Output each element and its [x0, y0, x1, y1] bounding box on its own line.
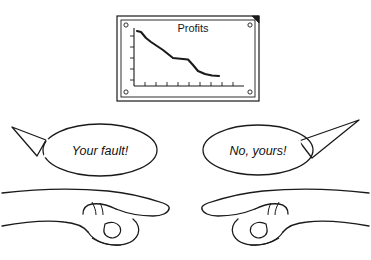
hand-right-palm-edge: [250, 238, 279, 245]
screw-top-left-icon: [124, 23, 128, 27]
pointing-hand-left-group: [2, 189, 169, 245]
chart-x-ticks: [145, 82, 233, 86]
speech-bubble-right-text: No, yours!: [230, 144, 287, 158]
hand-left-knuckle: [83, 204, 116, 214]
pointing-hand-right-group: [202, 189, 369, 245]
cartoon-illustration: Profits Your fault! No, yours!: [0, 0, 371, 260]
speech-bubble-left-group: Your fault!: [12, 124, 157, 176]
screw-top-right-icon: [248, 23, 252, 27]
chart-panel-group: Profits: [117, 16, 259, 101]
hand-left-fingertip: [116, 209, 169, 216]
hand-right-thumbnail: [250, 222, 267, 238]
hand-right-fingertip: [202, 209, 255, 216]
screw-bottom-right-icon: [248, 90, 252, 94]
speech-bubble-right-seam: [298, 140, 305, 159]
speech-bubble-right-group: No, yours!: [203, 120, 359, 175]
speech-bubble-left-text: Your fault!: [72, 144, 129, 158]
hand-right-knuckle: [255, 204, 288, 214]
speech-bubble-left-tail: [12, 127, 46, 156]
screw-bottom-left-icon: [124, 90, 128, 94]
chart-y-ticks: [130, 36, 134, 80]
hand-right-thumb-top: [283, 221, 369, 232]
chart-profit-line: [137, 31, 219, 76]
illustration-canvas: Profits Your fault! No, yours!: [0, 0, 371, 260]
corner-flag-icon: [252, 16, 259, 23]
hand-left-thumbnail: [104, 222, 121, 238]
hand-left-thumb-top: [2, 221, 88, 232]
hand-left-palm-edge: [92, 238, 121, 245]
chart-title: Profits: [177, 22, 209, 34]
